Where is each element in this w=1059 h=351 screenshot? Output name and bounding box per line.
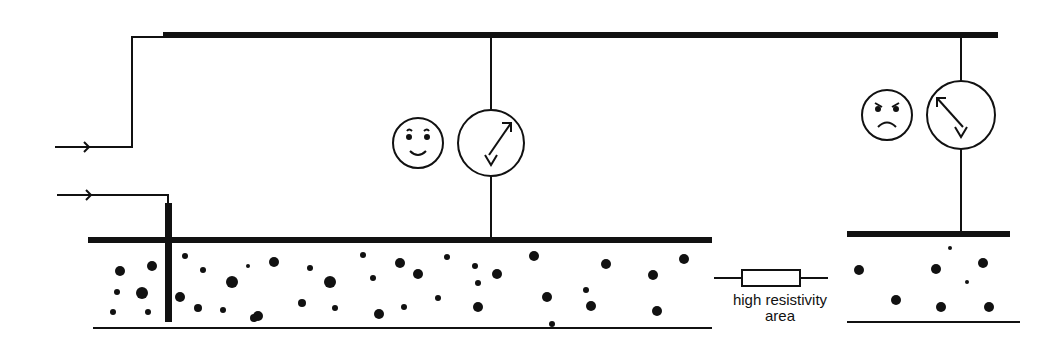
- particle-dot: [200, 267, 206, 273]
- particle-dot: [936, 302, 946, 312]
- particle-dot: [444, 254, 450, 260]
- particle-dot: [679, 254, 689, 264]
- particle-dot: [948, 246, 952, 250]
- particle-dot: [542, 292, 552, 302]
- particle-dot: [136, 287, 148, 299]
- particle-dot: [492, 269, 502, 279]
- ground-probe: [165, 203, 172, 322]
- label-line-2: area: [702, 308, 858, 324]
- high-resistivity-label: high resistivity area: [702, 292, 858, 324]
- particle-dot: [220, 307, 226, 313]
- particles: [110, 246, 994, 327]
- label-line-1: high resistivity: [702, 292, 858, 308]
- particle-dot: [472, 263, 478, 269]
- resistivity-diagram: [0, 0, 1059, 351]
- particle-dot: [175, 292, 185, 302]
- particle-dot: [529, 251, 539, 261]
- meter-needle-icon: [489, 123, 511, 155]
- particle-dot: [115, 266, 125, 276]
- particle-dot: [549, 321, 555, 327]
- particle-dot: [965, 280, 969, 284]
- particle-dot: [269, 257, 279, 267]
- particle-dot: [145, 309, 151, 315]
- particle-dot: [984, 302, 994, 312]
- particle-dot: [931, 264, 941, 274]
- particle-dot: [395, 258, 405, 268]
- particle-dot: [332, 305, 338, 311]
- meter-left: [458, 35, 524, 240]
- particle-dot: [114, 289, 120, 295]
- meter-pivot: [485, 155, 497, 165]
- particle-dot: [891, 295, 901, 305]
- particle-dot: [147, 261, 157, 271]
- particle-dot: [298, 299, 306, 307]
- particle-dot: [652, 306, 662, 316]
- input-wire-top: [55, 37, 165, 152]
- particle-dot: [246, 264, 250, 268]
- happy-face-icon: [393, 118, 443, 168]
- particle-dot: [475, 280, 481, 286]
- particle-dot: [435, 295, 441, 301]
- particle-dot: [250, 314, 258, 322]
- meter-right: [927, 35, 995, 234]
- particle-dot: [307, 265, 313, 271]
- particle-dot: [648, 270, 658, 280]
- particle-dot: [110, 309, 116, 315]
- particle-dot: [401, 304, 407, 310]
- particle-dot: [601, 259, 611, 269]
- angry-face-icon: [862, 90, 912, 140]
- particle-dot: [413, 269, 423, 279]
- particle-dot: [194, 304, 202, 312]
- particle-dot: [370, 275, 376, 281]
- particle-dot: [182, 253, 188, 259]
- particle-dot: [324, 276, 336, 288]
- input-wire-bottom: [57, 190, 168, 210]
- particle-dot: [586, 301, 596, 311]
- particle-dot: [978, 258, 988, 268]
- meter-pivot: [955, 127, 967, 137]
- particle-dot: [854, 265, 864, 275]
- particle-dot: [226, 276, 238, 288]
- particle-dot: [374, 309, 384, 319]
- resistor-symbol: [714, 270, 828, 286]
- meter-needle-icon: [937, 98, 963, 127]
- particle-dot: [473, 302, 483, 312]
- particle-dot: [583, 287, 589, 293]
- particle-dot: [360, 252, 366, 258]
